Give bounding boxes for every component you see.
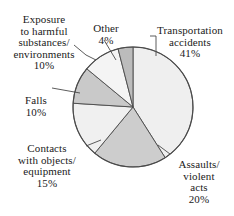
pie-label-exposure-text: Exposure to harmful substances/ environm… [13, 13, 74, 59]
pie-label-transportation-accidents-percent: 41% [148, 48, 232, 59]
pie-label-other-text: Other [93, 22, 119, 34]
pie-label-transportation-accidents: Transportation accidents 41% [148, 14, 232, 71]
pie-label-exposure-percent: 10% [2, 60, 86, 71]
pie-label-contacts-text: Contacts with objects/ equipment [18, 142, 76, 177]
pie-label-exposure: Exposure to harmful substances/ environm… [2, 3, 86, 83]
pie-chart-figure: Exposure to harmful substances/ environm… [0, 0, 234, 216]
pie-label-transportation-accidents-text: Transportation accidents [157, 24, 223, 47]
pie-label-falls: Falls 10% [12, 84, 60, 130]
pie-label-contacts: Contacts with objects/ equipment 15% [0, 132, 94, 201]
pie-label-falls-text: Falls [25, 94, 47, 106]
pie-label-assaults: Assaults/ violent acts 20% [168, 148, 230, 216]
pie-label-other-percent: 4% [84, 35, 128, 46]
pie-label-falls-percent: 10% [12, 107, 60, 118]
pie-label-assaults-percent: 20% [168, 194, 230, 205]
pie-label-assaults-text: Assaults/ violent acts [178, 158, 219, 193]
pie-label-contacts-percent: 15% [0, 178, 94, 189]
pie-label-other: Other 4% [84, 12, 128, 58]
